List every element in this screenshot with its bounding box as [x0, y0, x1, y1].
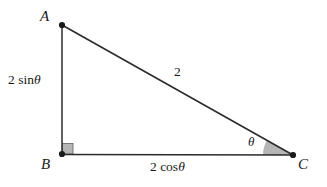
angle-label-theta: θ [248, 135, 254, 148]
vertex-label-a: A [40, 9, 49, 24]
side-label-ab: 2 sinθ [8, 73, 41, 87]
side-label-bc: 2 cosθ [150, 160, 185, 174]
vertex-label-b: B [41, 157, 50, 172]
side-label-ab-prefix: 2 sin [8, 72, 34, 87]
vertex-dot-b [59, 151, 65, 157]
vertex-dot-c [290, 152, 296, 158]
side-ac [62, 25, 293, 155]
side-label-ac: 2 [174, 65, 181, 79]
side-label-ab-symbol: θ [34, 72, 41, 87]
side-bc [62, 155, 293, 156]
triangle-diagram: A B C 2 sinθ 2 cosθ 2 θ [0, 0, 327, 187]
vertex-label-c: C [298, 157, 308, 172]
vertex-dot-a [59, 22, 65, 28]
side-label-bc-prefix: 2 cos [150, 159, 178, 174]
side-label-bc-symbol: θ [178, 159, 185, 174]
